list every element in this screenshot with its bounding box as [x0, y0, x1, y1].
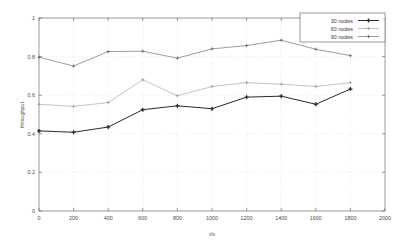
legend-label-90-nodes: 90 nodes [331, 34, 353, 40]
x-tick-label: 200 [69, 215, 78, 221]
y-tick-label: 0.2 [28, 169, 36, 175]
chart-legend: 30 nodes60 nodes90 nodes [300, 13, 385, 42]
x-tick-label: 0 [38, 215, 41, 221]
y-tick-label: 1 [32, 15, 35, 21]
throughput-line-chart: 0200400600800100012001400160018002000 00… [0, 0, 400, 245]
x-axis-title: t/s [209, 231, 215, 237]
x-tick-label: 1600 [310, 215, 322, 221]
y-tick-label: 0.8 [28, 54, 36, 60]
y-axis-title: throughput [19, 102, 25, 128]
y-tick-label: 0.6 [28, 92, 36, 98]
x-tick-label: 800 [173, 215, 182, 221]
chart-container: 0200400600800100012001400160018002000 00… [0, 0, 400, 245]
y-tick-label: 0 [32, 208, 35, 214]
legend-label-60-nodes: 60 nodes [331, 26, 353, 32]
x-tick-label: 600 [138, 215, 147, 221]
x-tick-label: 400 [104, 215, 113, 221]
x-tick-label: 1000 [206, 215, 218, 221]
x-tick-label: 2000 [379, 215, 391, 221]
legend-label-30-nodes: 30 nodes [331, 18, 353, 24]
x-tick-label: 1400 [275, 215, 287, 221]
x-tick-label: 1800 [344, 215, 356, 221]
x-tick-label: 1200 [241, 215, 253, 221]
y-tick-label: 0.4 [28, 131, 36, 137]
